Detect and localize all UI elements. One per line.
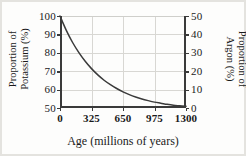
tick-mark-bottom (186, 108, 187, 111)
y-tick-label-left: 100 (16, 11, 56, 22)
x-axis-title: Age (millions of years) (0, 134, 246, 148)
tick-mark-right (186, 90, 189, 91)
y-tick-label-right: 40 (191, 29, 215, 40)
tick-mark-right (186, 34, 189, 35)
figure-border-bottom (0, 154, 246, 156)
tick-mark-bottom (92, 108, 93, 111)
tick-mark-bottom (155, 108, 156, 111)
x-tick-label: 1300 (166, 113, 206, 124)
tick-mark-right (186, 53, 189, 54)
y-axis-title-right: Proportion of Argon (%) (224, 0, 246, 119)
y-tick-label-left: 80 (16, 47, 56, 58)
plot-area (60, 16, 186, 108)
y-tick-label-right: 20 (191, 66, 215, 77)
potassium-argon-decay-chart: Proportion of Potassium (%) Proportion o… (0, 0, 246, 156)
y-tick-label-right: 30 (191, 47, 215, 58)
figure-border-left (0, 0, 2, 156)
y-tick-label-left: 70 (16, 66, 56, 77)
y-axis-title-right-line1: Proportion of (236, 0, 246, 119)
tick-mark-right (186, 71, 189, 72)
tick-mark-bottom (123, 108, 124, 111)
decay-curve (60, 16, 186, 108)
figure-border-top (0, 0, 246, 2)
y-tick-label-left: 90 (16, 29, 56, 40)
y-tick-label-right: 50 (191, 11, 215, 22)
y-tick-label-left: 60 (16, 84, 56, 95)
y-tick-label-right: 10 (191, 84, 215, 95)
tick-mark-right (186, 16, 189, 17)
tick-mark-bottom (60, 108, 61, 111)
y-axis-title-right-line2: Argon (%) (224, 0, 236, 119)
y-tick-label-left: 50 (16, 103, 56, 114)
